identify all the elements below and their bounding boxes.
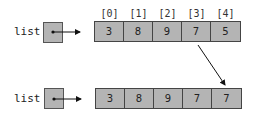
top-pointer-arrow (51, 30, 80, 33)
arrows-layer (0, 0, 254, 118)
bottom-pointer-arrow (52, 97, 81, 100)
copy-arrow (198, 45, 225, 85)
